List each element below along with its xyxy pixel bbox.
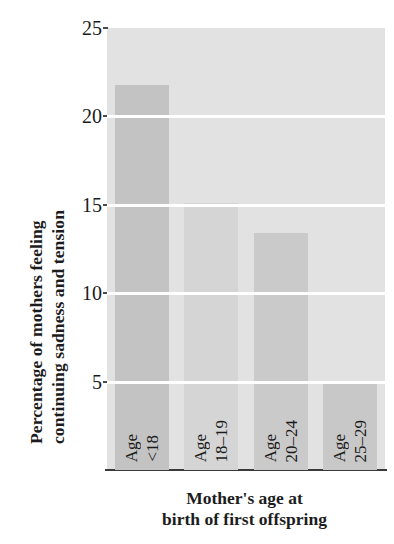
bar [254, 233, 308, 470]
gridline [107, 115, 385, 118]
y-axis-title-line-1: Percentage of mothers feeling [26, 220, 47, 444]
y-axis-tick-label: 25 [64, 18, 102, 38]
bar-chart-figure: Percentage of mothers feeling continuing… [0, 0, 394, 544]
y-axis-tick-labels: 252015105 [62, 0, 102, 470]
y-axis-tick-label: 10 [64, 283, 102, 303]
x-axis-title-line-1: Mother's age at [95, 488, 394, 509]
gridline [107, 204, 385, 207]
bar [323, 382, 377, 470]
y-axis-tick-mark [103, 27, 108, 29]
y-axis-tick-label: 15 [64, 195, 102, 215]
bar [115, 85, 169, 470]
y-axis-title: Percentage of mothers feeling continuing… [0, 0, 62, 470]
y-axis-tick-label: 5 [64, 372, 102, 392]
plot-area: Age<18Age18–19Age20–24Age25–29 [107, 28, 385, 470]
y-axis-tick-label: 20 [64, 106, 102, 126]
x-axis-title-line-2: birth of first offspring [95, 509, 394, 530]
bar [184, 203, 238, 470]
gridline [107, 292, 385, 295]
gridline [107, 381, 385, 384]
x-axis-title: Mother's age at birth of first offspring [95, 488, 394, 529]
